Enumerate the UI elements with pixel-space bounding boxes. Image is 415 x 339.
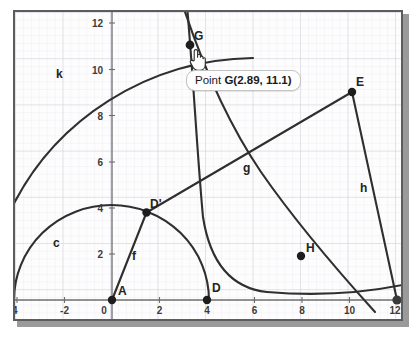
x-tick-label-4: 4 bbox=[204, 305, 210, 316]
geometry-app-window: A B D D' E G H k c f g h -4 -2 0 2 4 6 bbox=[0, 0, 415, 339]
tooltip-label-text: Point bbox=[195, 74, 224, 86]
segment-label-h: h bbox=[360, 181, 367, 195]
x-tick-label-12: 12 bbox=[389, 305, 401, 316]
curve-label-k: k bbox=[56, 67, 63, 81]
major-gridlines bbox=[15, 12, 401, 319]
x-tick-label-10: 10 bbox=[344, 305, 356, 316]
x-tick-label--2: -2 bbox=[60, 305, 69, 316]
point-d[interactable] bbox=[203, 296, 211, 304]
point-label-h: H bbox=[306, 241, 315, 255]
x-tick-label-0: 0 bbox=[101, 305, 107, 316]
y-tick-label-2: 2 bbox=[97, 249, 103, 260]
point-label-g: G bbox=[194, 29, 203, 43]
y-tick-label-10: 10 bbox=[92, 65, 104, 76]
point-tooltip: Point G(2.89, 11.1) bbox=[186, 70, 301, 91]
hand-pointer-cursor bbox=[189, 48, 206, 72]
graphics-view[interactable]: A B D D' E G H k c f g h -4 -2 0 2 4 6 bbox=[13, 10, 403, 321]
y-tick-label-8: 8 bbox=[97, 111, 103, 122]
segment-label-g: g bbox=[243, 161, 250, 175]
point-label-d-prime: D' bbox=[150, 197, 162, 211]
curve-label-c: c bbox=[53, 236, 60, 250]
x-tick-label-8: 8 bbox=[299, 305, 305, 316]
point-label-d: D bbox=[212, 281, 221, 295]
point-label-a: A bbox=[118, 284, 127, 298]
x-tick-label--4: -4 bbox=[15, 305, 18, 316]
x-tick-label-6: 6 bbox=[252, 305, 258, 316]
point-e[interactable] bbox=[348, 88, 356, 96]
point-h[interactable] bbox=[297, 252, 305, 260]
y-tick-label-12: 12 bbox=[92, 18, 104, 29]
y-tick-label-6: 6 bbox=[97, 157, 103, 168]
point-label-e: E bbox=[356, 75, 364, 89]
y-tick-label-4: 4 bbox=[97, 203, 103, 214]
x-tick-label-2: 2 bbox=[157, 305, 163, 316]
point-a[interactable] bbox=[108, 296, 116, 304]
coordinate-plane[interactable]: A B D D' E G H k c f g h -4 -2 0 2 4 6 bbox=[15, 12, 401, 319]
tooltip-value-text: G(2.89, 11.1) bbox=[224, 74, 291, 86]
